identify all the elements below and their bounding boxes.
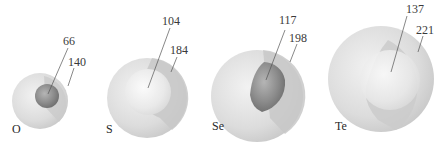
element-symbol: Se [212, 119, 224, 133]
atomic-sphere [35, 84, 59, 108]
element-symbol: O [12, 122, 21, 136]
element-symbol: S [106, 122, 113, 136]
element-Te: 137 221 Te [328, 2, 434, 133]
ionic-radius-label: 184 [170, 43, 188, 57]
element-symbol: Te [335, 119, 347, 133]
element-Se: 117 198 Se [211, 13, 307, 142]
element-S: 104 184 S [106, 14, 188, 138]
ionic-radius-label: 140 [68, 55, 86, 69]
atomic-sphere [360, 50, 420, 110]
atomic-radius-label: 66 [63, 34, 75, 48]
leader-line-ionic [68, 68, 74, 86]
leader-line-ionic [290, 44, 297, 62]
atomic-sphere [125, 69, 171, 115]
ionic-radius-label: 198 [289, 31, 307, 45]
element-O: 66 140 O [12, 34, 86, 136]
radii-diagram: 66 140 O 104 184 S 117 198 Se 137 221 Te [0, 0, 442, 145]
atomic-radius-label: 117 [279, 13, 297, 27]
atomic-radius-label: 104 [162, 14, 180, 28]
atomic-radius-label: 137 [406, 2, 424, 16]
ionic-radius-label: 221 [416, 23, 434, 37]
